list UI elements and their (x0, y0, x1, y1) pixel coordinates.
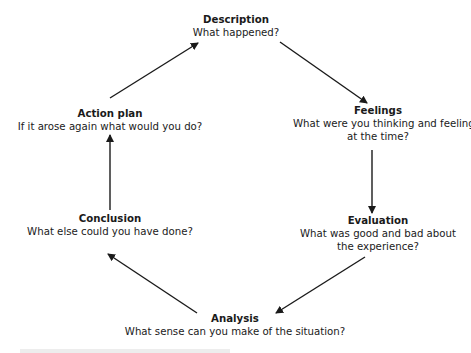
node-description-text: What were you thinking and feeling (293, 117, 463, 130)
node-description: Description What happened? (186, 13, 286, 39)
node-title: Analysis (105, 312, 365, 325)
reflective-cycle-diagram: Description What happened? Feelings What… (0, 0, 471, 353)
node-description-text: at the time? (293, 130, 463, 143)
node-conclusion: Conclusion What else could you have done… (20, 212, 200, 238)
arrow-description-to-feelings (280, 42, 367, 103)
node-description-text: What sense can you make of the situation… (105, 325, 365, 338)
arrow-analysis-to-conclusion (108, 254, 197, 313)
node-description-text: What happened? (186, 26, 286, 39)
bottom-shade (20, 349, 230, 353)
node-title: Conclusion (20, 212, 200, 225)
node-description-text: What was good and bad about (293, 227, 463, 240)
node-title: Action plan (5, 107, 215, 120)
node-description-text: What else could you have done? (20, 225, 200, 238)
arrows-layer (0, 0, 471, 353)
node-action-plan: Action plan If it arose again what would… (5, 107, 215, 133)
arrow-action-plan-to-description (110, 43, 198, 98)
node-analysis: Analysis What sense can you make of the … (105, 312, 365, 338)
node-description-text: the experience? (293, 240, 463, 253)
node-description-text: If it arose again what would you do? (5, 120, 215, 133)
node-evaluation: Evaluation What was good and bad about t… (293, 214, 463, 253)
node-title: Feelings (293, 104, 463, 117)
node-title: Description (186, 13, 286, 26)
node-title: Evaluation (293, 214, 463, 227)
arrow-evaluation-to-analysis (276, 257, 365, 313)
node-feelings: Feelings What were you thinking and feel… (293, 104, 463, 143)
